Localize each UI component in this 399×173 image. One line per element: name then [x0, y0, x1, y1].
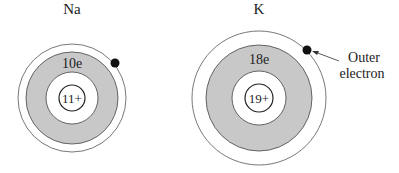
annotation-line2: electron — [339, 66, 384, 81]
outer-electron-na — [111, 59, 120, 68]
outer-electron-annotation: Outer electron — [312, 50, 385, 81]
annotation-line1: Outer — [348, 50, 380, 65]
atom-na: Na 11+ 10e — [18, 1, 126, 152]
outer-electron-k — [303, 46, 312, 55]
nucleus-charge-na: 11+ — [62, 91, 82, 106]
annotation-arrow-line — [315, 52, 339, 61]
shell-electrons-na: 10e — [62, 56, 82, 71]
shell-electrons-k: 18e — [249, 52, 269, 67]
nucleus-charge-k: 19+ — [249, 91, 269, 106]
atom-k-symbol: K — [254, 1, 265, 17]
arrow-head-icon — [312, 51, 319, 55]
atomic-structure-diagram: Na 11+ 10e K 19+ 18e Outer electron — [0, 0, 399, 173]
atom-k: K 19+ 18e — [192, 1, 326, 165]
atom-na-symbol: Na — [63, 1, 81, 17]
diagram-canvas: Na 11+ 10e K 19+ 18e Outer electron — [0, 0, 399, 173]
